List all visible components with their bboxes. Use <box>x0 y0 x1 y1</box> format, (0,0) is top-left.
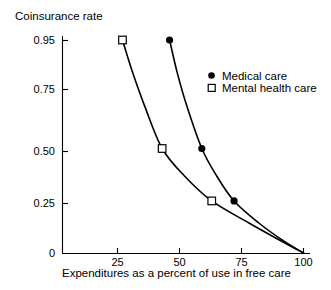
y-tick-label-0.25: 0.25 <box>22 197 55 209</box>
data-point-open-square <box>158 145 166 153</box>
x-tick-label-25: 25 <box>102 256 133 268</box>
data-point-filled-circle <box>230 197 237 204</box>
data-point-filled-circle <box>166 36 173 43</box>
data-point-filled-circle <box>198 145 205 152</box>
y-tick-label-0.75: 0.75 <box>22 83 55 95</box>
legend-item-mental-health-care: Mental health care <box>222 82 317 94</box>
x-tick-label-50: 50 <box>164 256 195 268</box>
y-tick-label-0.50: 0.50 <box>22 145 55 157</box>
data-point-open-square <box>119 36 127 44</box>
x-tick-label-75: 75 <box>226 256 257 268</box>
legend-filled-circle-icon <box>208 72 215 79</box>
x-axis-title: Expenditures as a percent of use in free… <box>62 267 291 279</box>
legend-item-medical-care: Medical care <box>222 70 287 82</box>
markers-mental-health-care <box>119 36 216 205</box>
axis-lines <box>62 36 310 254</box>
markers-medical-care <box>166 36 238 204</box>
x-tick-marks <box>118 248 304 254</box>
chart-figure: Coinsurance rate Expenditures as a perce… <box>0 0 331 290</box>
y-tick-marks <box>63 41 69 204</box>
legend-markers <box>208 72 215 91</box>
y-tick-label-0.95: 0.95 <box>22 34 55 46</box>
legend-open-square-icon <box>208 84 215 91</box>
data-point-open-square <box>208 197 216 205</box>
x-tick-label-100: 100 <box>288 256 319 268</box>
y-tick-label-0: 0 <box>22 247 55 259</box>
y-axis-title: Coinsurance rate <box>15 10 103 22</box>
